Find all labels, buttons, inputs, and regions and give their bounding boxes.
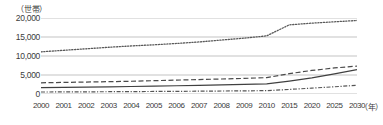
series-dashed	[41, 66, 357, 83]
x-axis-tick-2007: 2007	[191, 101, 207, 110]
chart-svg	[41, 18, 357, 94]
x-axis-tick-2010: 2010	[259, 101, 275, 110]
x-axis-tick-2008: 2008	[213, 101, 229, 110]
x-axis-unit-label: （年）	[360, 101, 383, 112]
x-axis-tick-2005: 2005	[146, 101, 162, 110]
x-axis-tick-2002: 2002	[78, 101, 94, 110]
y-axis-tick-5000: 5,000	[2, 70, 40, 80]
series-solid	[41, 70, 357, 88]
y-axis-tick-15000: 15,000	[2, 32, 40, 42]
series-dotted	[41, 20, 357, 51]
x-axis-tick-2000: 2000	[33, 101, 49, 110]
chart-container: （世帯） 05,00010,00015,00020,000 2000200120…	[0, 0, 383, 125]
series-dashdot	[41, 85, 357, 92]
x-axis-tick-2020: 2020	[304, 101, 320, 110]
x-axis-tick-2009: 2009	[236, 101, 252, 110]
x-axis-tick-2004: 2004	[123, 101, 139, 110]
x-axis-tick-2025: 2025	[326, 101, 342, 110]
y-axis-tick-10000: 10,000	[2, 51, 40, 61]
x-axis-tick-2003: 2003	[101, 101, 117, 110]
x-axis-tick-2006: 2006	[168, 101, 184, 110]
x-axis-tick-2001: 2001	[55, 101, 71, 110]
y-axis-tick-0: 0	[2, 89, 40, 99]
x-axis-tick-2015: 2015	[281, 101, 297, 110]
y-axis-tick-20000: 20,000	[2, 13, 40, 23]
plot-area	[41, 18, 357, 94]
